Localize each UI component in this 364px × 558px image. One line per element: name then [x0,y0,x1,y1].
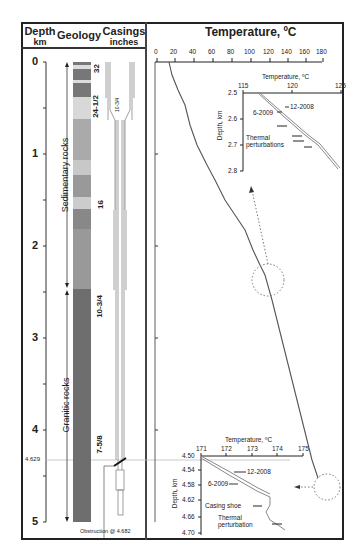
casing-shoe-label: Casing shoe [205,502,241,509]
inset2-ylabel: Depth, km [171,479,178,509]
inset1-title: Temperature, ºC [262,73,309,80]
depth-tick-3: 3 [32,331,38,343]
inset2-y-tick: 4.70 [182,529,195,536]
inset1-label-6-2009: 6-2009 [253,109,273,116]
casing-32: 32 [92,64,101,73]
x-tick: 0 [154,48,158,55]
depth-tick-2: 2 [32,239,38,251]
casing-7-5-8: 7-5/8 [95,435,104,453]
inset2-label-12-2008: 12-2008 [247,468,271,475]
inset1-y-tick: 2.6 [228,115,237,122]
inset2-x-tick: 172 [221,445,232,452]
inset2-x-tick: 174 [272,445,283,452]
inset1-x-tick: 120 [287,82,298,89]
x-tick: 160 [299,48,310,55]
x-tick: 80 [227,48,234,55]
inset1-y-tick: 2.8 [228,167,237,174]
depth-marker: 4.629 [25,456,40,462]
obstruction-label: Obstruction @ 4.682 [80,528,131,534]
depth-tick-5: 5 [32,515,38,527]
inset1-label-12-2008: 12-2008 [290,103,314,110]
inset2-y-tick: 4.50 [182,452,195,459]
x-tick: 100 [244,48,255,55]
inset2-title: Temperature, ºC [225,436,272,443]
x-tick: 40 [189,48,196,55]
casing-10-3-4: 10-3/4 [95,295,104,318]
depth-tick-0: 0 [32,55,38,67]
inset2-thermal-label: Thermalperturbation [218,514,253,528]
casing-10-3-4-top: 10-3/4 [114,98,120,112]
inset1-y-tick: 2.5 [228,89,237,96]
casing-16: 16 [96,200,105,209]
inset1-ylabel: Depth, km [216,111,223,141]
x-tick: 20 [170,48,177,55]
casing-24-half: 24-1/2 [91,95,100,118]
inset2-x-tick: 171 [196,445,207,452]
x-tick: 60 [208,48,215,55]
inset2-y-tick: 4.62 [182,496,195,503]
inset1-x-tick: 115 [238,82,248,89]
x-tick: 120 [263,48,274,55]
x-tick: 140 [281,48,292,55]
inset2-y-tick: 4.66 [182,513,195,520]
inset1-thermal-label: Thermalperturbations [246,134,284,148]
inset2-y-tick: 4.58 [182,481,195,488]
depth-tick-4: 4 [32,423,38,435]
inset1-x-tick: 125 [335,82,346,89]
inset2-y-tick: 4.54 [182,466,195,473]
sedimentary-label: Sedimentary rocks [60,120,70,230]
x-tick: 180 [316,48,327,55]
inset2-label-6-2009: 6-2009 [208,480,228,487]
inset2-x-tick: 173 [247,445,258,452]
granitic-label: Granitic rocks [61,355,71,455]
inset1-y-tick: 2.7 [228,141,237,148]
diagram-graphics [0,0,364,558]
depth-tick-1: 1 [32,147,38,159]
inset2-x-tick: 175 [298,445,309,452]
